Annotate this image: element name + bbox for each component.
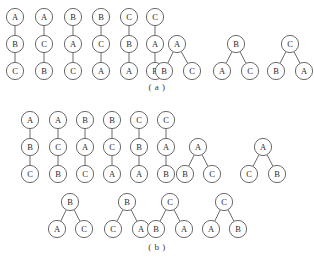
tree-node: A: [76, 138, 93, 155]
tree-node: B: [21, 138, 38, 155]
tree-node: A: [120, 62, 137, 79]
tree-node: C: [104, 220, 121, 237]
tree-b-balanced-a-bc: ABC: [176, 138, 220, 182]
tree-edge: [74, 210, 80, 222]
node-label: B: [41, 66, 47, 76]
tree-b-balanced-a-cb: ACB: [240, 138, 285, 182]
tree-b-balanced-b-ac: BAC: [48, 193, 92, 237]
tree-b-chain-acb: ACB: [49, 111, 66, 182]
node-label: A: [54, 224, 61, 234]
node-label: C: [136, 115, 142, 125]
tree-node: C: [146, 8, 163, 25]
tree-node: C: [183, 62, 200, 79]
tree-node: A: [189, 138, 206, 155]
tree-node: B: [267, 62, 284, 79]
node-label: C: [82, 169, 88, 179]
tree-node: A: [295, 62, 312, 79]
tree-edge: [294, 52, 300, 64]
node-label: A: [55, 115, 62, 125]
tree-edge: [228, 210, 234, 222]
tree-node: C: [49, 138, 66, 155]
tree-node: C: [6, 62, 23, 79]
tree-node: C: [215, 193, 232, 210]
node-label: A: [12, 12, 19, 22]
node-label: A: [301, 66, 308, 76]
node-label: A: [138, 224, 145, 234]
node-label: B: [126, 39, 132, 49]
tree-node: C: [241, 62, 258, 79]
tree-a-chain-bca: BCA: [92, 8, 109, 79]
node-label: B: [109, 115, 115, 125]
binary-trees-figure: ABCACBBACBCACBACABABCBACCBAABCACBBACBCAC…: [0, 0, 314, 272]
tree-a-balanced-c-ba: CBA: [267, 35, 312, 79]
tree-node: B: [229, 220, 246, 237]
node-label: C: [221, 197, 227, 207]
node-label: B: [235, 224, 241, 234]
tree-node: B: [227, 35, 244, 52]
tree-node: B: [120, 35, 137, 52]
node-label: B: [55, 169, 61, 179]
tree-node: C: [240, 165, 257, 182]
tree-node: C: [92, 35, 109, 52]
node-label: C: [110, 224, 116, 234]
node-label: B: [161, 66, 167, 76]
tree-node: B: [268, 165, 285, 182]
node-label: C: [126, 12, 132, 22]
node-label: C: [27, 169, 33, 179]
tree-edge: [174, 210, 180, 222]
panel-a: ABCACBBACBCACBACABABCBACCBA: [6, 8, 312, 79]
node-label: B: [153, 224, 159, 234]
node-label: C: [209, 169, 215, 179]
tree-node: C: [64, 62, 81, 79]
tree-edge: [226, 52, 232, 64]
tree-node: C: [35, 35, 52, 52]
panel-b-caption: ( b ): [0, 242, 314, 252]
node-label: A: [260, 142, 267, 152]
tree-node: B: [61, 193, 78, 210]
tree-edge: [240, 52, 246, 64]
tree-diagram-canvas: ABCACBBACBCACBACABABCBACCBAABCACBBACBCAC…: [0, 0, 314, 272]
tree-node: A: [21, 111, 38, 128]
node-label: B: [273, 66, 279, 76]
node-label: A: [136, 169, 143, 179]
node-label: C: [287, 39, 293, 49]
node-label: C: [247, 66, 253, 76]
node-label: C: [163, 115, 169, 125]
tree-b-chain-abc: ABC: [21, 111, 38, 182]
tree-edge: [181, 52, 188, 64]
tree-b-balanced-b-ca: BCA: [104, 193, 149, 237]
node-label: A: [109, 169, 116, 179]
node-label: B: [27, 142, 33, 152]
tree-node: A: [146, 35, 163, 52]
node-label: C: [246, 169, 252, 179]
tree-node: A: [202, 220, 219, 237]
node-label: B: [124, 197, 130, 207]
node-label: A: [27, 115, 34, 125]
tree-edge: [280, 52, 286, 64]
tree-edge: [168, 52, 174, 64]
node-label: A: [219, 66, 226, 76]
panel-b: ABCACBBACBCACBACABABCACBBACBCACBACAB: [21, 111, 285, 237]
tree-node: B: [92, 8, 109, 25]
tree-a-chain-cba: CBA: [120, 8, 137, 79]
node-label: C: [152, 12, 158, 22]
tree-node: B: [157, 165, 174, 182]
tree-node: A: [6, 8, 23, 25]
tree-edge: [117, 210, 123, 222]
node-label: B: [67, 197, 73, 207]
node-label: C: [81, 224, 87, 234]
tree-node: A: [64, 35, 81, 52]
node-label: A: [70, 39, 77, 49]
tree-edge: [61, 210, 67, 222]
tree-node: A: [92, 62, 109, 79]
panel-a-caption: ( a ): [0, 82, 314, 92]
tree-edge: [160, 210, 166, 222]
tree-node: B: [6, 35, 23, 52]
node-label: B: [182, 169, 188, 179]
tree-node: A: [48, 220, 65, 237]
tree-edge: [267, 155, 273, 167]
tree-node: B: [35, 62, 52, 79]
tree-b-chain-bac: BAC: [76, 111, 93, 182]
tree-node: A: [49, 111, 66, 128]
tree-node: C: [76, 165, 93, 182]
